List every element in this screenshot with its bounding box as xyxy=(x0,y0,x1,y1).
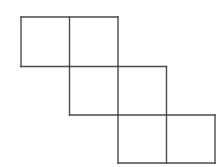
square-r2c2 xyxy=(118,115,167,163)
square-r0c1 xyxy=(70,17,119,67)
square-r1c1 xyxy=(70,67,119,116)
figure-canvas xyxy=(0,0,223,167)
square-r2c3 xyxy=(167,115,216,163)
square-r1c2 xyxy=(118,67,167,116)
staircase-hexomino-figure xyxy=(0,0,223,167)
square-r0c0 xyxy=(21,17,70,67)
